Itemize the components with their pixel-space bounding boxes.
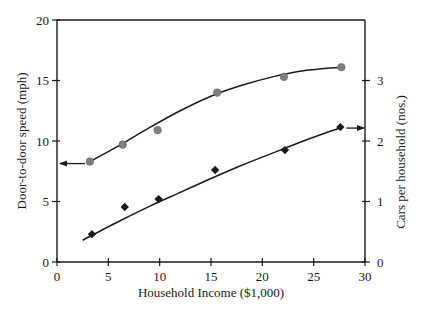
- x-axis-title: Household Income ($1,000): [138, 285, 284, 300]
- data-point-circle: [338, 63, 346, 71]
- series-cars-per-household: [83, 123, 364, 240]
- y-tick-label: 10: [36, 134, 49, 149]
- y2-axis-title: Cars per household (nos.): [393, 95, 408, 229]
- data-point-circle: [119, 141, 127, 149]
- y2-tick-label: 2: [377, 134, 384, 149]
- y-tick-label: 20: [36, 13, 49, 28]
- x-tick-label: 5: [105, 269, 112, 284]
- data-point-circle: [86, 158, 94, 166]
- y-axis-title: Door-to-door speed (mph): [14, 73, 29, 210]
- y-tick-label: 5: [43, 194, 50, 209]
- data-point-diamond: [211, 166, 219, 174]
- x-tick-label: 0: [54, 269, 61, 284]
- data-point-circle: [213, 89, 221, 97]
- data-point-diamond: [336, 123, 344, 131]
- data-point-circle: [154, 126, 162, 134]
- trend-curve: [90, 67, 342, 161]
- x-tick-label: 25: [307, 269, 320, 284]
- chart: 051015202530051015200123 Household Incom…: [0, 0, 423, 313]
- axes: 051015202530051015200123: [36, 13, 384, 285]
- data-point-diamond: [121, 203, 129, 211]
- x-tick-label: 20: [256, 269, 269, 284]
- series-layer: [60, 63, 364, 240]
- y-tick-label: 15: [36, 73, 49, 88]
- y2-tick-label: 1: [377, 194, 384, 209]
- data-point-diamond: [154, 195, 162, 203]
- y2-tick-label: 0: [377, 255, 384, 270]
- series-door-to-door-speed: [60, 63, 345, 165]
- x-tick-label: 15: [205, 269, 218, 284]
- x-tick-label: 10: [153, 269, 166, 284]
- y-tick-label: 0: [43, 255, 50, 270]
- x-tick-label: 30: [359, 269, 372, 284]
- data-point-circle: [280, 73, 288, 81]
- y2-tick-label: 3: [377, 73, 384, 88]
